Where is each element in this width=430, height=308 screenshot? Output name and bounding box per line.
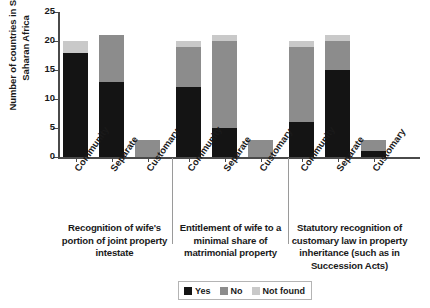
bar-1 (63, 41, 88, 157)
bar-segment-yes (325, 70, 350, 157)
bar-segment-no (99, 35, 124, 81)
bar-segment-yes (99, 82, 124, 157)
y-tick-label: 10 (44, 92, 55, 103)
bar-segment-no (289, 47, 314, 122)
bar-7 (289, 41, 314, 157)
legend-swatch-icon (252, 287, 260, 295)
legend-item-no: No (220, 286, 243, 296)
y-tick-label: 0 (50, 150, 55, 161)
group-caption-3: Statutory recognition of customary law i… (290, 222, 409, 272)
group-caption-1: Recognition of wife's portion of joint p… (58, 222, 171, 260)
bar-segment-no (176, 47, 201, 88)
group-separator-1 (172, 158, 173, 244)
legend: Yes No Not found (178, 281, 312, 300)
y-tick-label: 5 (50, 121, 55, 132)
y-axis-title: Number of countries in Sub-Saharan Afric… (7, 0, 35, 113)
legend-item-yes: Yes (184, 286, 211, 296)
y-tick-label: 15 (44, 63, 55, 74)
bar-segment-no (325, 41, 350, 70)
legend-swatch-icon (220, 287, 228, 295)
legend-item-not-found: Not found (252, 286, 305, 296)
plot-area: 0 5 10 15 20 25 CommunitySeparateCustoma… (58, 12, 420, 157)
bar-4 (176, 41, 201, 157)
legend-swatch-icon (184, 287, 192, 295)
group-separator-2 (288, 158, 289, 244)
legend-label: Not found (263, 286, 305, 296)
bar-segment-not-found (63, 41, 88, 53)
y-tick-label: 25 (44, 5, 55, 16)
bar-segment-no (212, 41, 237, 128)
legend-label: Yes (195, 286, 211, 296)
bar-segment-yes (63, 53, 88, 157)
y-axis-line (58, 12, 60, 157)
bar-chart: Number of countries in Sub-Saharan Afric… (0, 0, 430, 308)
legend-label: No (231, 286, 243, 296)
bar-segment-yes (176, 87, 201, 157)
y-tick-label: 20 (44, 34, 55, 45)
group-caption-2: Entitlement of wife to a minimal share o… (174, 222, 287, 260)
